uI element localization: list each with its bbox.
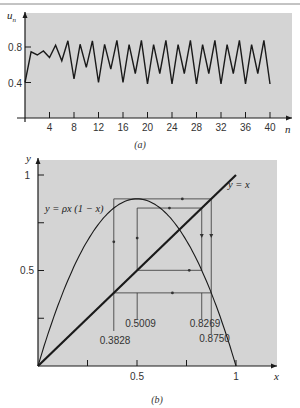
panel-a-xtick-label: 40	[264, 122, 276, 133]
panel-a-ytick-label: 0.8	[8, 42, 22, 53]
cobweb-arrow-icon	[112, 240, 115, 243]
panel-b-parabola-label: y = ρx (1 − x)	[44, 203, 104, 215]
cycle-value-label: 0.3828	[100, 335, 131, 346]
cobweb-arrow-icon	[188, 269, 191, 272]
panel-a-xtick-label: 20	[142, 122, 154, 133]
panel-a-xtick-label: 36	[240, 122, 252, 133]
panel-b-background	[38, 160, 277, 366]
panel-b-xtick-05: 0.5	[130, 371, 144, 382]
figure: 0.40.8 481216202428323640 un n (a) y 1 0…	[0, 0, 300, 408]
panel-a-xtick-label: 8	[71, 122, 77, 133]
cobweb-arrow-icon	[171, 291, 174, 294]
cobweb-arrow-icon	[136, 237, 139, 240]
panel-a-xtick-label: 32	[215, 122, 227, 133]
panel-a-xtick-label: 28	[191, 122, 203, 133]
panel-b-ytick-1: 1	[24, 170, 30, 181]
panel-a-xtick-label: 16	[117, 122, 129, 133]
cobweb-arrow-icon	[181, 197, 184, 200]
cycle-value-label: 0.8750	[199, 333, 230, 344]
cycle-value-label: 0.8269	[190, 318, 221, 329]
panel-b: y 1 0.5 0.5 1 x y = ρx (1 − x) y = x 0.3…	[20, 152, 279, 406]
panel-b-caption: (b)	[151, 394, 163, 406]
panel-a-xlabel: n	[285, 123, 291, 135]
panel-b-diagonal-label: y = x	[227, 179, 250, 190]
panel-a-xtick-label: 12	[93, 122, 105, 133]
panel-a-xtick-label: 24	[166, 122, 178, 133]
panel-b-ytick-05: 0.5	[20, 265, 34, 276]
panel-a: 0.40.8 481216202428323640 un n (a)	[7, 9, 292, 151]
panel-a-ytick-label: 0.4	[8, 78, 22, 89]
cobweb-arrow-icon	[168, 207, 171, 210]
cycle-value-label: 0.5009	[125, 318, 156, 329]
panel-a-caption: (a)	[134, 139, 146, 151]
panel-a-ylabel: un	[7, 9, 17, 24]
panel-b-ylabel: y	[25, 152, 31, 164]
panel-b-xtick-1: 1	[233, 371, 239, 382]
panel-a-xtick-label: 4	[47, 122, 53, 133]
panel-b-xlabel: x	[273, 370, 279, 382]
